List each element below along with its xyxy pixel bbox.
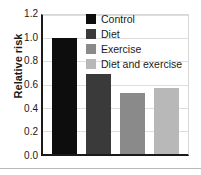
- legend-label: Diet: [101, 29, 120, 40]
- y-tick-label: 1.2: [24, 9, 38, 19]
- y-tick-label: 1.0: [24, 33, 38, 43]
- y-tick-label: 0.4: [24, 104, 38, 114]
- bar-diet[interactable]: [86, 74, 111, 154]
- bar-diet-and-exercise[interactable]: [154, 88, 179, 154]
- legend-item[interactable]: Exercise: [86, 43, 182, 55]
- y-axis-tick-labels: 0.00.20.40.60.81.01.2: [12, 14, 38, 156]
- legend-label: Exercise: [101, 44, 141, 55]
- bottom-divider: [0, 168, 201, 169]
- y-tick-label: 0.8: [24, 56, 38, 66]
- legend-swatch-icon: [86, 29, 96, 39]
- legend-label: Control: [101, 14, 135, 25]
- legend-item[interactable]: Diet and exercise: [86, 58, 182, 70]
- bar-control[interactable]: [52, 38, 77, 154]
- legend-swatch-icon: [86, 14, 96, 24]
- bar-exercise[interactable]: [120, 93, 145, 154]
- y-tick-label: 0.0: [24, 151, 38, 161]
- legend-swatch-icon: [86, 44, 96, 54]
- legend-label: Diet and exercise: [101, 59, 182, 70]
- y-tick-label: 0.2: [24, 127, 38, 137]
- y-tick-label: 0.6: [24, 80, 38, 90]
- legend-swatch-icon: [86, 59, 96, 69]
- chart-legend: ControlDietExerciseDiet and exercise: [86, 13, 182, 70]
- bar-chart-figure: Relative risk 0.00.20.40.60.81.01.2 Cont…: [0, 0, 201, 175]
- legend-item[interactable]: Diet: [86, 28, 182, 40]
- legend-item[interactable]: Control: [86, 13, 182, 25]
